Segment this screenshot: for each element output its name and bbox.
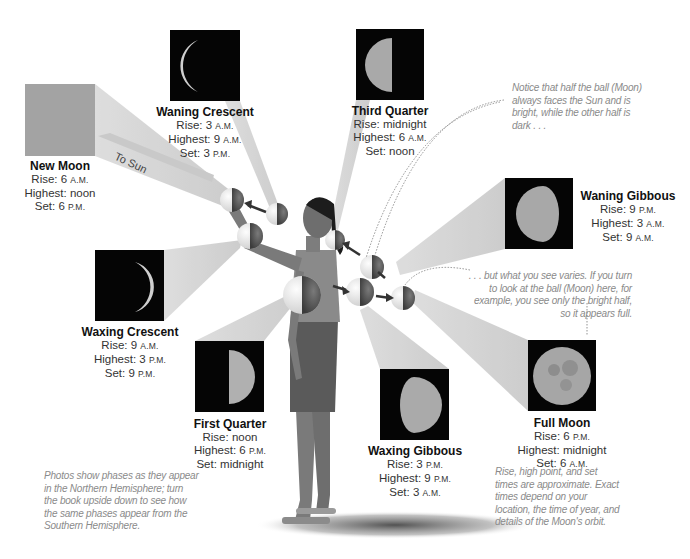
note-what-you-see: . . . but what you see varies. If you tu…	[468, 270, 632, 320]
waxing-crescent-photo	[95, 250, 164, 321]
full-moon-photo	[528, 340, 596, 411]
waning-gibbous-photo	[505, 178, 573, 249]
waxing-gibbous-label: Waxing Gibbous Rise: 3 P.M. Highest: 9 P…	[365, 445, 465, 500]
new-moon-label: New Moon Rise: 6 A.M. Highest: noon Set:…	[10, 160, 110, 214]
full-moon-label: Full Moon Rise: 6 P.M. Highest: midnight…	[512, 417, 612, 471]
waxing-crescent-label: Waxing Crescent Rise: 9 A.M. Highest: 3 …	[80, 326, 180, 381]
note-times-approximate: Rise, high point, and set times are appr…	[495, 466, 620, 529]
third-quarter-photo	[356, 29, 424, 100]
third-quarter-label: Third Quarter Rise: midnight Highest: 6 …	[340, 105, 440, 158]
waning-crescent-photo	[170, 30, 240, 101]
note-hemisphere: Photos show phases as they appear in the…	[44, 470, 199, 533]
waning-crescent-label: Waning Crescent Rise: 3 A.M. Highest: 9 …	[155, 106, 255, 161]
waning-gibbous-label: Waning Gibbous Rise: 9 P.M. Highest: 3 A…	[578, 190, 678, 245]
first-quarter-label: First Quarter Rise: noon Highest: 6 P.M.…	[180, 418, 280, 471]
note-half-bright: Notice that half the ball (Moon) always …	[512, 82, 642, 132]
new-moon-photo	[25, 84, 95, 156]
first-quarter-photo	[195, 341, 264, 412]
phase-name: New Moon	[10, 160, 110, 173]
waxing-gibbous-photo	[380, 369, 449, 440]
